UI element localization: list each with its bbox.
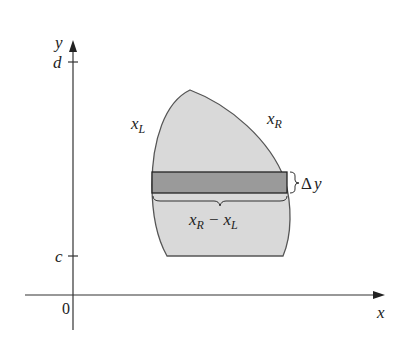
tick-label-d: d (53, 53, 62, 72)
y-axis-label: y (53, 33, 63, 52)
origin-label: 0 (62, 300, 70, 317)
y-axis-arrow-icon (69, 40, 77, 52)
right-curve-label: xR (266, 109, 283, 131)
delta-y-label: Δy (301, 174, 322, 193)
x-axis-label: x (376, 303, 385, 322)
height-brace (290, 172, 299, 193)
left-curve-label: xL (130, 114, 146, 136)
strip-width-label: xR−xL (188, 210, 238, 232)
diagram-canvas: y x 0 d c xL xR Δy xR−xL (0, 0, 406, 350)
x-axis-arrow-icon (373, 291, 385, 299)
horizontal-strip (152, 172, 287, 193)
tick-label-c: c (55, 247, 63, 266)
